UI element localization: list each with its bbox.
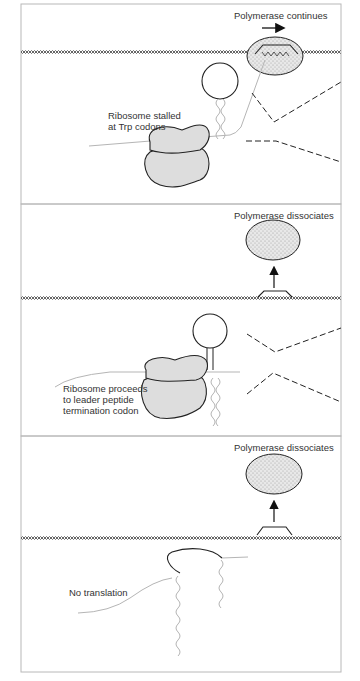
attenuation-diagram: Polymerase continues Ribosome stalled at… (0, 0, 360, 681)
hairpin-loop (193, 314, 227, 348)
mrna-loop (167, 549, 222, 573)
label-ribosome-proceeds: Ribosome proceeds to leader peptide term… (63, 383, 150, 416)
transcription-bubble (257, 527, 292, 535)
attenuator-lower (247, 373, 341, 402)
panel-2: Polymerase dissociates Ribosome proceeds… (21, 204, 341, 436)
panel-3: Polymerase dissociates No translation (21, 436, 341, 672)
label-polymerase-dissociates: Polymerase dissociates (234, 442, 334, 453)
rna-polymerase (246, 220, 300, 260)
stem-right (221, 99, 225, 139)
attenuator-lower (246, 141, 341, 162)
rna-polymerase (246, 454, 302, 494)
attenuator-upper (252, 82, 341, 122)
stem-left (216, 99, 220, 139)
label-polymerase-continues: Polymerase continues (234, 10, 328, 21)
label-no-translation: No translation (69, 587, 128, 598)
hairpin-loop (202, 63, 238, 99)
label-polymerase-dissociates: Polymerase dissociates (234, 210, 334, 221)
stem-right (219, 560, 223, 608)
dna-strand (21, 534, 341, 540)
attenuator-upper (247, 328, 341, 352)
rna-polymerase (247, 37, 303, 75)
dna-strand (21, 296, 341, 302)
terminator-stem (211, 378, 215, 426)
panel-1: Polymerase continues Ribosome stalled at… (21, 4, 341, 204)
antiterminator-stem (176, 576, 180, 656)
ribosome-small-subunit (145, 355, 207, 381)
